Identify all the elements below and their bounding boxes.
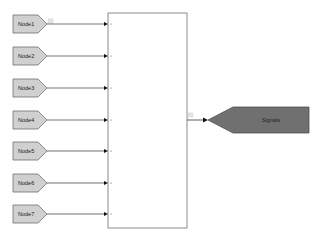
arrow-icon (104, 118, 108, 122)
input-node-6[interactable]: Node6 (13, 174, 112, 192)
port-dot-icon (110, 150, 111, 151)
arrow-icon (104, 86, 108, 90)
arrow-icon (104, 54, 108, 58)
arrow-icon (104, 181, 108, 185)
input-node-5[interactable]: Node5 (13, 142, 112, 160)
port-dot-icon (110, 182, 111, 183)
node-label: Node3 (18, 85, 34, 91)
port-dot-icon (110, 23, 111, 24)
port-marker-icon (188, 113, 193, 117)
node-label: Node6 (18, 180, 34, 186)
arrow-icon (104, 212, 108, 216)
node-label: Node1 (18, 21, 34, 27)
port-dot-icon (110, 87, 111, 88)
signals-goto-block[interactable] (208, 107, 309, 133)
signals-label: Signals (262, 117, 280, 123)
input-node-4[interactable]: Node4 (13, 111, 112, 129)
node-label: Node2 (18, 53, 34, 59)
input-node-2[interactable]: Node2 (13, 47, 112, 65)
port-dot-icon (110, 119, 111, 120)
arrow-icon (104, 22, 108, 26)
mux-block[interactable] (108, 13, 187, 228)
node-label: Node5 (18, 148, 34, 154)
port-dot-icon (110, 213, 111, 214)
node-label: Node4 (18, 117, 34, 123)
diagram-canvas: Node1Node2Node3Node4Node5Node6Node7 Sign… (0, 0, 318, 241)
node-label: Node7 (18, 211, 34, 217)
input-node-1[interactable]: Node1 (13, 15, 112, 33)
input-node-3[interactable]: Node3 (13, 79, 112, 97)
port-dot-icon (110, 55, 111, 56)
input-node-7[interactable]: Node7 (13, 205, 112, 223)
port-marker-icon (48, 19, 53, 23)
arrow-icon (104, 149, 108, 153)
